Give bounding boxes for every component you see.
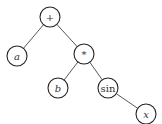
- edge-plus-times: [57, 24, 77, 46]
- node-label: *: [82, 49, 87, 60]
- node-sin: sin: [98, 78, 118, 98]
- node-x: x: [136, 104, 156, 124]
- node-label: x: [143, 109, 149, 120]
- edges-layer: [23, 24, 137, 108]
- node-a: a: [7, 46, 27, 66]
- edge-sin-x: [116, 94, 137, 109]
- node-label: +: [46, 12, 54, 23]
- edge-times-b: [64, 62, 78, 80]
- node-times: *: [74, 44, 94, 64]
- edge-plus-a: [23, 25, 43, 49]
- node-plus: +: [40, 7, 60, 27]
- edge-times-sin: [90, 62, 102, 80]
- nodes-layer: +a*bsinx: [7, 7, 156, 124]
- node-b: b: [48, 78, 68, 98]
- node-label: b: [55, 83, 61, 94]
- expression-tree-diagram: +a*bsinx: [0, 0, 162, 124]
- tree-svg: +a*bsinx: [0, 0, 162, 124]
- node-label: a: [14, 51, 20, 62]
- node-label: sin: [101, 83, 116, 94]
